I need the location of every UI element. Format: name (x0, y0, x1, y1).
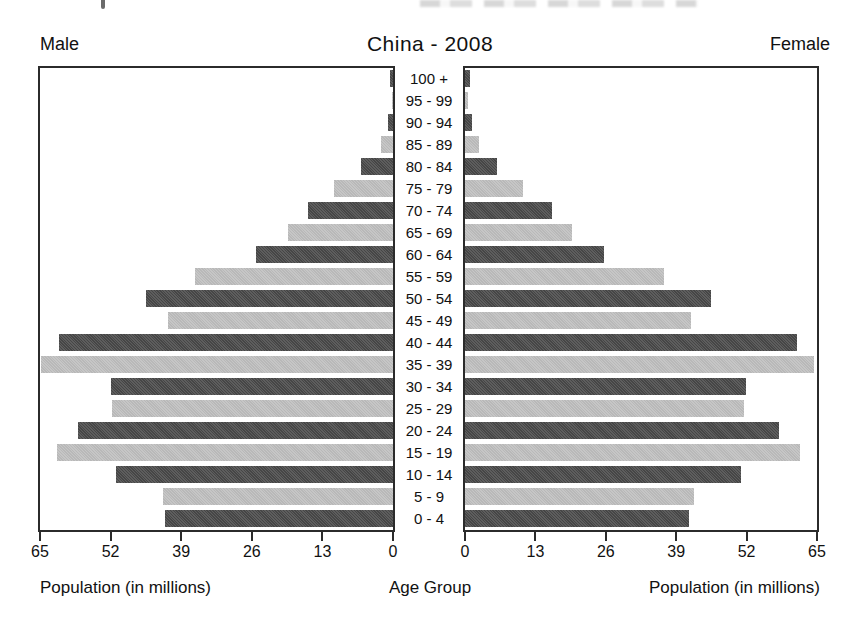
male-bar (112, 400, 393, 417)
male-bar-row (40, 288, 393, 310)
age-group-label: 35 - 39 (393, 354, 465, 376)
female-bar-row (465, 420, 817, 442)
age-group-label: 60 - 64 (393, 244, 465, 266)
female-bar (465, 224, 572, 241)
age-group-label: 10 - 14 (393, 464, 465, 486)
axis-tick (534, 532, 536, 541)
male-bar-row (40, 376, 393, 398)
male-bar-row (40, 156, 393, 178)
axis-tick-label: 52 (725, 543, 769, 561)
female-bar (465, 92, 468, 109)
axis-tick-label: 26 (230, 543, 274, 561)
axis-tick-label: 0 (443, 543, 487, 561)
female-bar (465, 378, 746, 395)
axis-tick (464, 532, 466, 541)
male-bar-row (40, 222, 393, 244)
male-bar (256, 246, 393, 263)
age-group-label: 95 - 99 (393, 90, 465, 112)
axis-tick (321, 532, 323, 541)
female-bar-row (465, 310, 817, 332)
female-bar-row (465, 332, 817, 354)
female-bar-row (465, 486, 817, 508)
female-bar (465, 246, 604, 263)
male-pyramid-panel (38, 66, 395, 532)
male-bar-row (40, 310, 393, 332)
male-bar-row (40, 486, 393, 508)
age-group-caption: Age Group (368, 578, 492, 598)
male-bar (116, 466, 393, 483)
male-bar-row (40, 354, 393, 376)
male-bar-row (40, 332, 393, 354)
age-group-label: 75 - 79 (393, 178, 465, 200)
age-group-label: 30 - 34 (393, 376, 465, 398)
age-group-label: 65 - 69 (393, 222, 465, 244)
male-bar (78, 422, 393, 439)
female-bar-row (465, 464, 817, 486)
male-bar (288, 224, 393, 241)
female-bar (465, 356, 814, 373)
female-bar-row (465, 156, 817, 178)
female-bar-row (465, 112, 817, 134)
male-bar-row (40, 442, 393, 464)
age-group-label: 45 - 49 (393, 310, 465, 332)
age-group-label: 20 - 24 (393, 420, 465, 442)
female-pyramid-panel (463, 66, 819, 532)
age-group-label: 5 - 9 (393, 486, 465, 508)
cropped-text-artifact (420, 0, 698, 7)
female-bar (465, 180, 523, 197)
male-bar (195, 268, 393, 285)
female-bar-row (465, 442, 817, 464)
female-bar (465, 158, 497, 175)
axis-tick (816, 532, 818, 541)
female-bar-row (465, 68, 817, 90)
male-bar-row (40, 178, 393, 200)
axis-tick (251, 532, 253, 541)
female-bar-row (465, 398, 817, 420)
axis-tick-label: 26 (584, 543, 628, 561)
male-bar-row (40, 112, 393, 134)
female-bar-row (465, 354, 817, 376)
age-group-label: 0 - 4 (393, 508, 465, 530)
axis-tick (39, 532, 41, 541)
axis-tick (675, 532, 677, 541)
male-bar-row (40, 200, 393, 222)
female-bar (465, 202, 552, 219)
male-bar (381, 136, 393, 153)
axis-tick (110, 532, 112, 541)
axis-tick (746, 532, 748, 541)
male-bar-row (40, 398, 393, 420)
axis-tick (605, 532, 607, 541)
female-bar (465, 400, 744, 417)
male-bar-row (40, 134, 393, 156)
population-pyramid-figure: Male China - 2008 Female 100 +95 - 9990 … (0, 0, 852, 643)
female-bar (465, 268, 664, 285)
axis-tick-label: 65 (795, 543, 839, 561)
male-bar (163, 488, 393, 505)
female-side-label: Female (720, 34, 830, 55)
male-side-label: Male (40, 34, 79, 55)
age-group-label: 25 - 29 (393, 398, 465, 420)
female-bar (465, 488, 694, 505)
female-bar-row (465, 288, 817, 310)
male-bar (59, 334, 393, 351)
axis-tick (392, 532, 394, 541)
male-bar-row (40, 420, 393, 442)
axis-tick-label: 0 (371, 543, 415, 561)
age-group-column: 100 +95 - 9990 - 9485 - 8980 - 8475 - 79… (393, 68, 465, 530)
age-group-label: 80 - 84 (393, 156, 465, 178)
axis-tick-label: 39 (654, 543, 698, 561)
male-bar (308, 202, 393, 219)
axis-tick-label: 13 (300, 543, 344, 561)
female-bar-row (465, 508, 817, 530)
male-x-axis: 65523926130 (40, 530, 393, 564)
female-bar (465, 290, 711, 307)
female-x-axis: 01326395265 (465, 530, 817, 564)
axis-tick (180, 532, 182, 541)
female-bar (465, 334, 797, 351)
axis-tick-label: 13 (513, 543, 557, 561)
female-bar-row (465, 90, 817, 112)
female-bar (465, 422, 779, 439)
cropped-text-artifact (101, 0, 105, 9)
female-bar-row (465, 244, 817, 266)
male-axis-caption: Population (in millions) (40, 578, 260, 598)
